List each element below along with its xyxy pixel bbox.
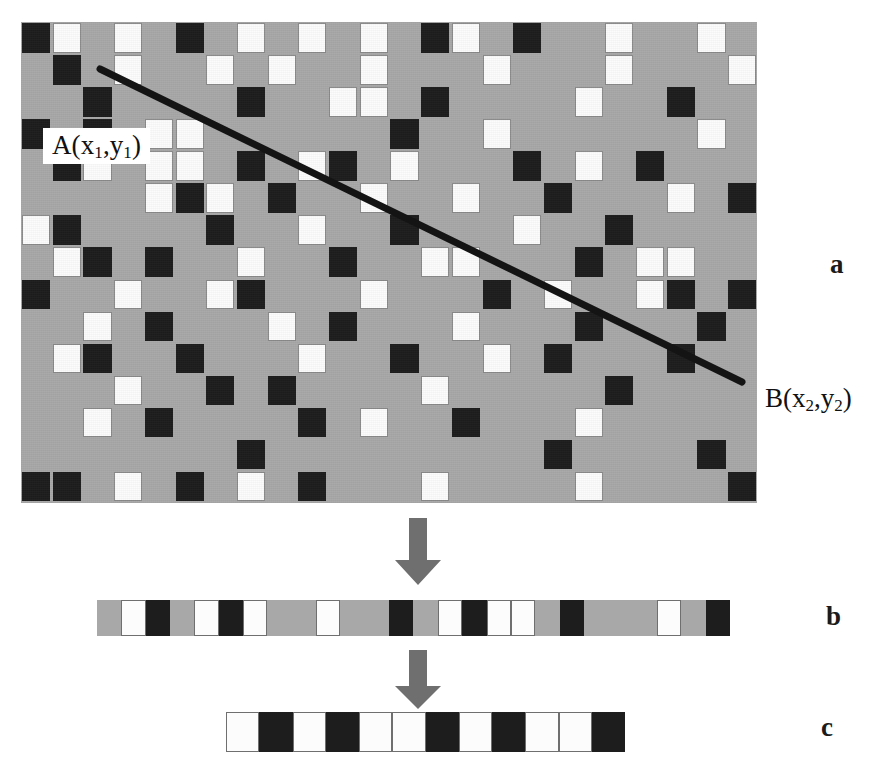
strip-cell [681,600,705,636]
label-point-a: A(x1,y1) [43,128,150,164]
strip-cell [292,600,316,636]
strip-cell [459,712,492,752]
line-a-to-b [100,69,742,382]
label-b-suffix: ) [843,383,852,413]
profile-line [21,22,757,503]
strip-cell [511,600,535,636]
strip-cell [226,712,259,752]
strip-cell [267,600,291,636]
panel-b-profile-strip [97,600,730,636]
strip-cell [259,712,292,752]
strip-cell [706,600,730,636]
strip-cell [525,712,558,752]
strip-cell [559,712,592,752]
label-a-prefix: A(x [52,130,94,160]
label-b-prefix: B(x [765,383,806,413]
strip-cell [633,600,657,636]
down-arrow-icon [392,518,444,586]
label-a-mid: ,y [103,130,123,160]
strip-cell [487,600,511,636]
strip-cell [389,600,413,636]
strip-cell [413,600,437,636]
strip-cell [608,600,632,636]
label-point-b: B(x2,y2) [762,383,855,413]
strip-cell [243,600,267,636]
strip-cell [359,712,392,752]
strip-cell [584,600,608,636]
panel-label-a: a [830,249,844,280]
down-arrow-icon [392,650,444,710]
figure-container: A(x1,y1) B(x2,y2) a b c [0,0,882,776]
strip-cell [340,600,364,636]
strip-cell [365,600,389,636]
strip-cell [657,600,681,636]
strip-cell [326,712,359,752]
label-b-sub1: 2 [806,396,815,415]
panel-a-image-grid: A(x1,y1) [21,22,757,503]
label-a-suffix: ) [132,130,141,160]
strip-cell [560,600,584,636]
strip-cell [219,600,243,636]
label-a-sub1: 1 [94,143,103,162]
strip-cell [438,600,462,636]
strip-cell [462,600,486,636]
label-a-sub2: 1 [123,143,132,162]
strip-cell [170,600,194,636]
strip-cell [426,712,459,752]
strip-cell [121,600,145,636]
strip-cell [592,712,625,752]
panel-c-binarized-strip [226,712,625,752]
strip-cell [293,712,326,752]
panel-label-c: c [821,712,833,743]
label-b-sub2: 2 [834,396,843,415]
strip-cell [194,600,218,636]
strip-cell [316,600,340,636]
label-b-mid: ,y [814,383,834,413]
strip-cell [492,712,525,752]
strip-cell [97,600,121,636]
strip-cell [146,600,170,636]
strip-cell [392,712,425,752]
strip-cell [535,600,559,636]
panel-label-b: b [826,601,841,632]
